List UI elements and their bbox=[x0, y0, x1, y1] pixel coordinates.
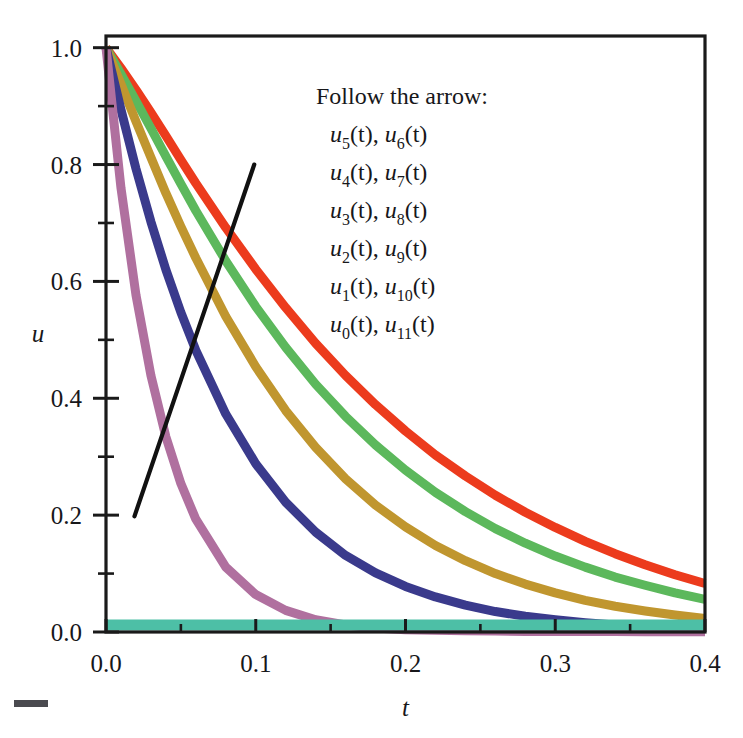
legend-symbol: u bbox=[330, 311, 342, 337]
y-tick-label: 1.0 bbox=[51, 35, 82, 62]
line-chart: 0.00.10.20.30.40.00.20.40.60.81.0 Follow… bbox=[0, 0, 743, 738]
legend-row: u3(t), u8(t) bbox=[330, 197, 427, 228]
legend-symbol: u bbox=[385, 121, 397, 147]
legend-subscript: 0 bbox=[342, 325, 350, 342]
legend-symbol: u bbox=[330, 121, 342, 147]
legend-symbol: u bbox=[385, 235, 397, 261]
legend-argument: (t) bbox=[350, 121, 373, 147]
figure-canvas: 0.00.10.20.30.40.00.20.40.60.81.0 Follow… bbox=[0, 0, 743, 738]
x-axis-title: t bbox=[402, 694, 410, 721]
legend-symbol: u bbox=[385, 159, 397, 185]
legend-separator: , bbox=[373, 159, 385, 185]
legend-argument: (t) bbox=[350, 159, 373, 185]
y-tick-label: 0.4 bbox=[51, 385, 83, 412]
legend-symbol: u bbox=[385, 311, 397, 337]
legend-separator: , bbox=[373, 311, 385, 337]
legend-subscript: 2 bbox=[342, 249, 350, 266]
legend-symbol: u bbox=[330, 235, 342, 261]
legend-row: u0(t), u11(t) bbox=[330, 311, 435, 342]
legend-argument: (t) bbox=[405, 121, 428, 147]
legend-separator: , bbox=[373, 235, 385, 261]
x-tick-label: 0.3 bbox=[540, 650, 571, 677]
legend-row: u1(t), u10(t) bbox=[330, 273, 435, 304]
y-tick-label: 0.0 bbox=[51, 619, 82, 646]
legend-subscript: 1 bbox=[342, 287, 350, 304]
legend-argument: (t) bbox=[350, 197, 373, 223]
legend-heading: Follow the arrow: bbox=[316, 83, 488, 109]
legend-row: u4(t), u7(t) bbox=[330, 159, 427, 190]
legend-row: u2(t), u9(t) bbox=[330, 235, 427, 266]
legend-symbol: u bbox=[330, 273, 342, 299]
legend-symbol: u bbox=[385, 197, 397, 223]
legend-subscript: 7 bbox=[397, 173, 405, 190]
legend-subscript: 4 bbox=[342, 173, 350, 190]
legend-separator: , bbox=[373, 197, 385, 223]
legend-argument: (t) bbox=[405, 159, 428, 185]
x-tick-label: 0.2 bbox=[390, 650, 421, 677]
legend-subscript: 10 bbox=[397, 287, 413, 304]
legend-symbol: u bbox=[385, 273, 397, 299]
legend-argument: (t) bbox=[350, 311, 373, 337]
x-tick-label: 0.4 bbox=[689, 650, 721, 677]
legend-argument: (t) bbox=[405, 235, 428, 261]
legend-subscript: 11 bbox=[397, 325, 412, 342]
legend-subscript: 8 bbox=[397, 211, 405, 228]
y-tick-label: 0.8 bbox=[51, 152, 82, 179]
legend-subscript: 3 bbox=[342, 211, 350, 228]
x-tick-label: 0.1 bbox=[240, 650, 271, 677]
legend-row: u5(t), u6(t) bbox=[330, 121, 427, 152]
caption-fragment-mark bbox=[14, 700, 48, 707]
legend-subscript: 5 bbox=[342, 135, 350, 152]
legend-subscript: 9 bbox=[397, 249, 405, 266]
legend-separator: , bbox=[373, 121, 385, 147]
y-tick-label: 0.2 bbox=[51, 502, 82, 529]
y-tick-label: 0.6 bbox=[51, 268, 82, 295]
legend-argument: (t) bbox=[350, 235, 373, 261]
legend-separator: , bbox=[373, 273, 385, 299]
legend-symbol: u bbox=[330, 197, 342, 223]
legend-argument: (t) bbox=[350, 273, 373, 299]
x-tick-label: 0.0 bbox=[90, 650, 121, 677]
legend-block: Follow the arrow:u5(t), u6(t)u4(t), u7(t… bbox=[316, 83, 488, 342]
legend-argument: (t) bbox=[412, 311, 435, 337]
legend-symbol: u bbox=[330, 159, 342, 185]
y-axis-title: u bbox=[32, 320, 45, 347]
legend-argument: (t) bbox=[413, 273, 436, 299]
legend-argument: (t) bbox=[405, 197, 428, 223]
legend-subscript: 6 bbox=[397, 135, 405, 152]
